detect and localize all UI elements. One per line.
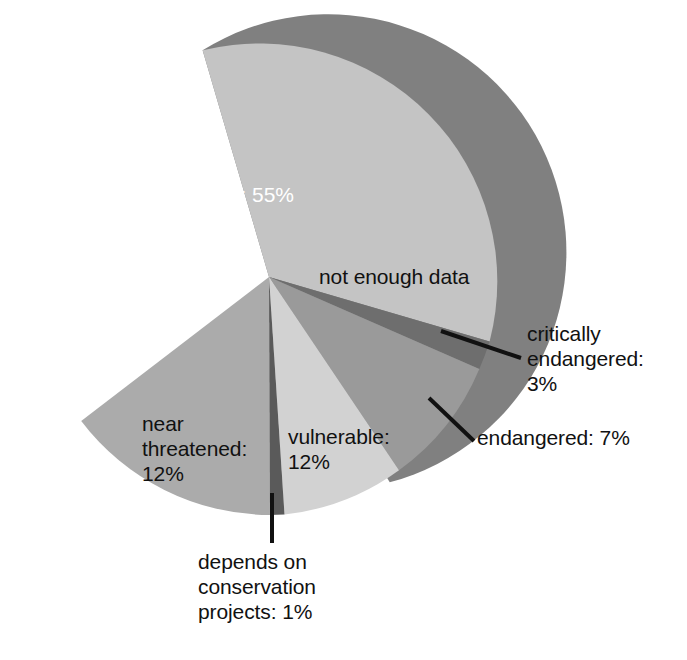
pie-chart: least concern: 55% not enough data vulne…: [0, 0, 687, 660]
pie-chart-canvas: [0, 0, 687, 660]
pie-slices: [81, 14, 566, 515]
slice-near-threatened[interactable]: [81, 277, 269, 515]
